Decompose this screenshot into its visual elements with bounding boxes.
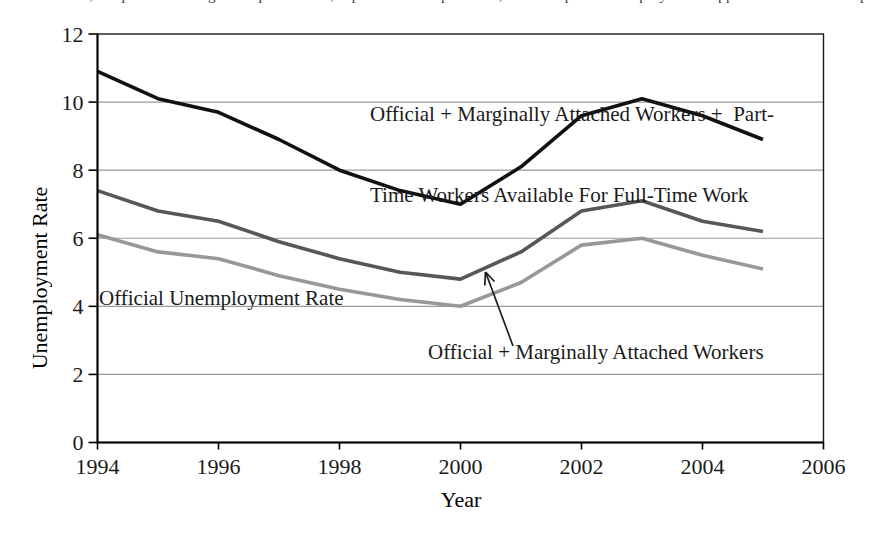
x-tick-label-1998: 1998 <box>318 454 362 479</box>
x-axis-title: Year <box>441 487 482 513</box>
y-axis-title: Unemployment Rate <box>27 187 53 370</box>
x-tick-label-2000: 2000 <box>439 454 483 479</box>
series-label-line2: Time Workers Available For Full-Time Wor… <box>370 182 774 209</box>
x-tick-label-2006: 2006 <box>802 454 846 479</box>
series-label-official-marginal-parttime: Official + Marginally Attached Workers +… <box>370 47 774 236</box>
y-tick-label-6: 6 <box>73 226 84 251</box>
y-tick-label-12: 12 <box>62 22 84 47</box>
x-tick-label-2002: 2002 <box>560 454 604 479</box>
annotation-arrow <box>485 272 513 346</box>
y-tick-label-2: 2 <box>73 362 84 387</box>
x-tick-label-1994: 1994 <box>76 454 120 479</box>
arrow-barb-left <box>485 272 486 286</box>
y-tick-label-4: 4 <box>73 294 84 319</box>
y-tick-label-10: 10 <box>62 90 84 115</box>
series-label-line1: Official + Marginally Attached Workers +… <box>370 101 774 128</box>
arrow-shaft <box>486 272 514 346</box>
x-tick-label-1996: 1996 <box>197 454 241 479</box>
y-tick-label-8: 8 <box>73 158 84 183</box>
series-label-official: Official Unemployment Rate <box>99 285 344 312</box>
y-tick-label-0: 0 <box>73 430 84 455</box>
x-tick-label-2004: 2004 <box>681 454 725 479</box>
series-label-official-marginal: Official + Marginally Attached Workers <box>428 339 764 366</box>
